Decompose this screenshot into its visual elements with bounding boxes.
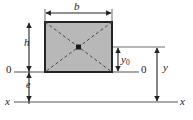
centroid-marker (76, 45, 81, 50)
figure-rectangular-cross-section: b h 0 e x y0 0 y x (0, 0, 193, 120)
dimension-label-y: y (163, 62, 168, 73)
dimension-label-h: h (24, 37, 30, 48)
dimension-label-y0: y0 (121, 54, 130, 66)
axis-label-origin-right: 0 (141, 64, 147, 75)
axis-label-origin-left: 0 (6, 64, 12, 75)
dimension-label-e: e (26, 80, 30, 90)
axis-label-x-left: x (5, 96, 10, 107)
dimension-label-y0-subscript: 0 (126, 58, 130, 67)
diagram-canvas (0, 0, 193, 120)
axis-label-x-right: x (180, 96, 185, 107)
dimension-label-b: b (74, 1, 80, 12)
